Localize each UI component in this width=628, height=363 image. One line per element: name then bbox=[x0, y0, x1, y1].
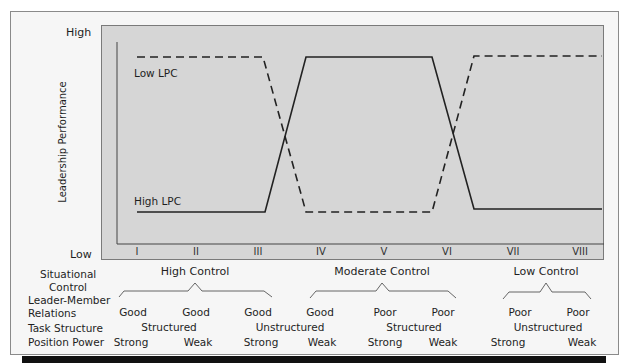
bracket-moderate-control bbox=[310, 283, 456, 298]
row-label-line: Situational bbox=[40, 268, 96, 281]
position-power-cell: Strong bbox=[114, 337, 149, 348]
position-power-cell: Weak bbox=[568, 337, 597, 348]
lmr-cell: Good bbox=[119, 307, 147, 318]
bracket-high-control bbox=[119, 283, 272, 297]
octant-label: VI bbox=[442, 246, 452, 257]
lmr-cell: Good bbox=[306, 307, 334, 318]
row-label-situational-control: Situational Control bbox=[40, 268, 96, 293]
position-power-cell: Weak bbox=[308, 337, 337, 348]
octant-label: II bbox=[193, 246, 199, 257]
group-low-control: Low Control bbox=[514, 266, 579, 277]
lmr-cell: Poor bbox=[431, 307, 454, 318]
lmr-cell: Poor bbox=[566, 307, 589, 318]
position-power-cell: Weak bbox=[184, 337, 213, 348]
position-power-cell: Strong bbox=[491, 337, 526, 348]
row-label-task-structure: Task Structure bbox=[28, 322, 103, 335]
row-label-leader-member-relations: Leader-Member Relations bbox=[28, 294, 110, 319]
task-structure-cell: Structured bbox=[141, 322, 197, 333]
row-label-line: Relations bbox=[28, 307, 110, 320]
bracket-low-control bbox=[503, 283, 591, 299]
group-moderate-control: Moderate Control bbox=[334, 266, 430, 277]
octant-label: IV bbox=[316, 246, 326, 257]
series-low-lpc-line bbox=[137, 56, 602, 212]
position-power-cell: Strong bbox=[244, 337, 279, 348]
lmr-cell: Good bbox=[244, 307, 272, 318]
lmr-cell: Poor bbox=[373, 307, 396, 318]
row-label-line: Leader-Member bbox=[28, 294, 110, 307]
task-structure-cell: Unstructured bbox=[256, 322, 325, 333]
lmr-cell: Good bbox=[182, 307, 210, 318]
task-structure-cell: Structured bbox=[386, 322, 442, 333]
group-high-control: High Control bbox=[161, 266, 230, 277]
series-high-lpc-line bbox=[137, 57, 602, 212]
position-power-cell: Weak bbox=[429, 337, 458, 348]
row-label-position-power: Position Power bbox=[28, 336, 104, 349]
row-label-line: Control bbox=[40, 281, 96, 294]
position-power-cell: Strong bbox=[368, 337, 403, 348]
series-label-low-lpc: Low LPC bbox=[134, 67, 178, 79]
octant-label: I bbox=[136, 246, 139, 257]
octant-label: V bbox=[381, 246, 388, 257]
series-label-high-lpc: High LPC bbox=[134, 195, 181, 207]
task-structure-cell: Unstructured bbox=[514, 322, 583, 333]
lmr-cell: Poor bbox=[508, 307, 531, 318]
octant-label: III bbox=[254, 246, 263, 257]
octant-label: VIII bbox=[572, 246, 588, 257]
octant-label: VII bbox=[507, 246, 520, 257]
